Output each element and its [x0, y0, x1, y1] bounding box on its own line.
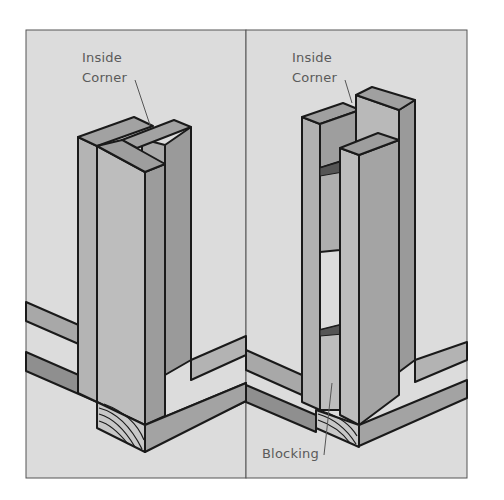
inside-corner-label-right-line2: Corner — [292, 70, 337, 85]
stud-back-right-side — [165, 127, 191, 375]
stud-front-side — [145, 164, 165, 425]
stud-back-left-face — [78, 137, 97, 402]
blocking-label: Blocking — [262, 446, 319, 461]
left-stud-side — [302, 117, 320, 410]
front-stud-face — [359, 140, 399, 425]
back-stud-side — [399, 100, 415, 372]
stud-front-face — [97, 146, 145, 425]
wall-corner-framing-diagram: Inside Corner Inside Corner — [0, 0, 504, 500]
inside-corner-label-line2: Corner — [82, 70, 127, 85]
front-stud-side — [340, 148, 359, 425]
inside-corner-label-right-line1: Inside — [292, 50, 332, 65]
inside-corner-label-line1: Inside — [82, 50, 122, 65]
